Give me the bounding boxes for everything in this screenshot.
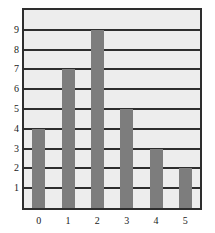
y-tick-label: 5	[1, 104, 19, 114]
bar-2	[91, 30, 104, 208]
y-tick-label: 7	[1, 64, 19, 74]
y-axis-labels: 9 8 7 6 5 4 3 2 1	[0, 0, 19, 233]
bars-layer	[22, 8, 202, 210]
y-tick-label: 8	[1, 45, 19, 55]
x-tick-label: 2	[87, 216, 107, 226]
bar-5	[179, 168, 192, 208]
x-tick-label: 4	[146, 216, 166, 226]
y-tick-label: 9	[1, 25, 19, 35]
y-tick-label: 6	[1, 84, 19, 94]
y-tick-label: 2	[1, 163, 19, 173]
x-tick-label: 0	[29, 216, 49, 226]
x-axis-labels: 0 1 2 3 4 5	[22, 216, 202, 230]
y-tick-label: 3	[1, 144, 19, 154]
x-tick-label: 5	[175, 216, 195, 226]
x-tick-label: 1	[58, 216, 78, 226]
bar-4	[150, 149, 163, 208]
y-tick-label: 1	[1, 183, 19, 193]
y-tick-label: 4	[1, 124, 19, 134]
bar-chart: 9 8 7 6 5 4 3 2 1 0 1 2 3 4 5	[0, 0, 215, 233]
bar-1	[62, 69, 75, 208]
x-tick-label: 3	[117, 216, 137, 226]
bar-3	[120, 109, 133, 208]
bar-0	[32, 129, 45, 208]
